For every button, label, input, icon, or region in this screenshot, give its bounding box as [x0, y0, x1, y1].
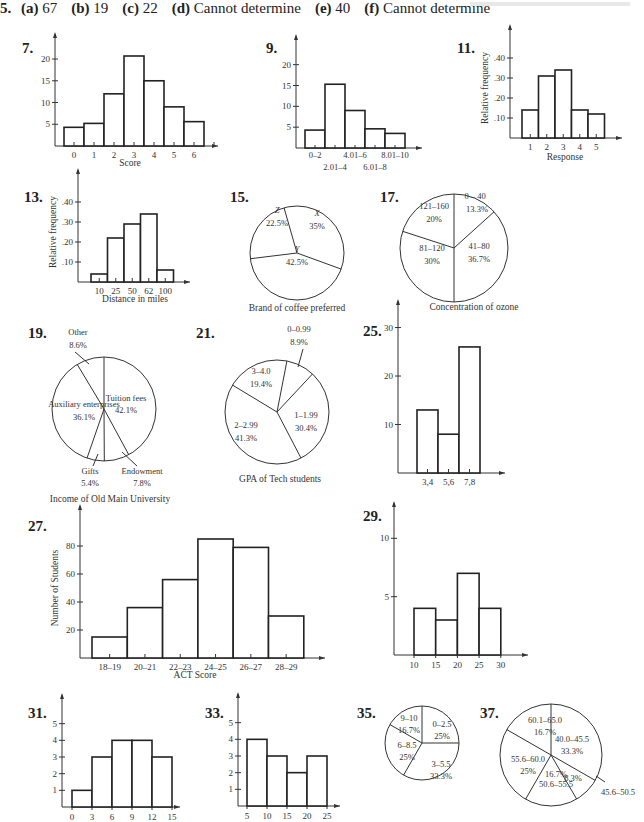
chart-text: 40.0–45.5 — [555, 734, 589, 744]
chart-text: 25% — [520, 766, 536, 776]
chart-text: 50.6–55.5 — [539, 779, 573, 789]
chart-text: 55.6–60.0 — [511, 754, 545, 764]
chart-text: 33.3% — [561, 746, 583, 756]
pie-chart-37: 40.0–45.533.3%45.6–50.58.3%16.7%50.6–55.… — [0, 0, 644, 822]
chart-text: 60.1–65.0 — [528, 715, 562, 725]
chart-text: 16.7% — [545, 769, 567, 779]
chart-text: 16.7% — [534, 727, 556, 737]
chart-text: 45.6–50.5 — [601, 787, 635, 797]
